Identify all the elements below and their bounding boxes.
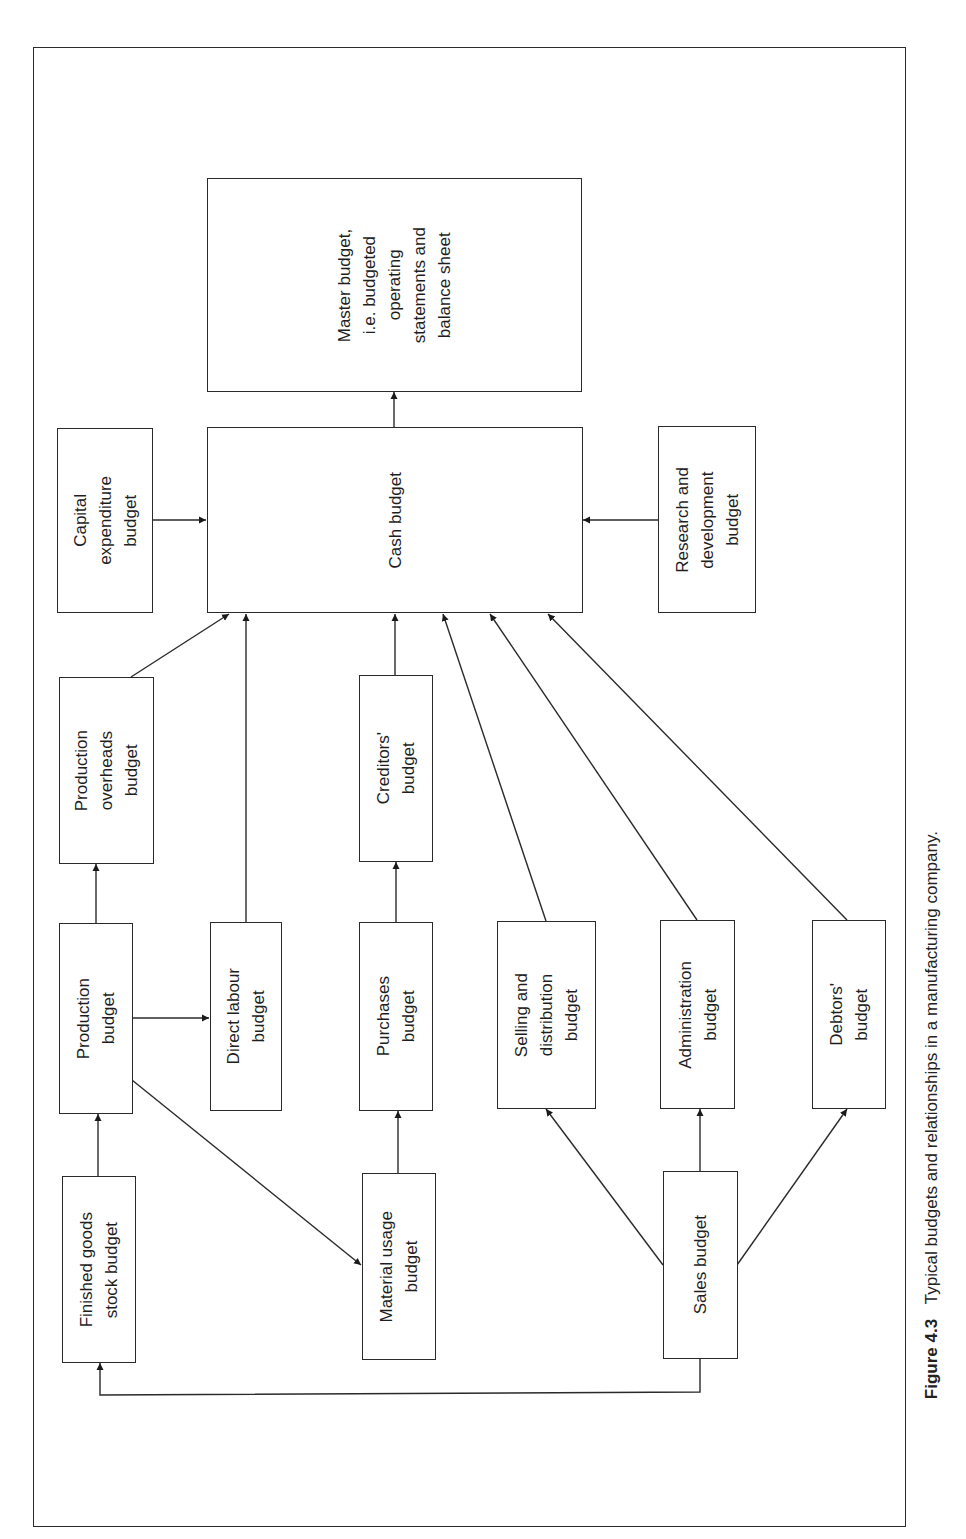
figure-number: Figure 4.3 [922, 1319, 941, 1399]
box-material-usage-budget: Material usage budget [362, 1173, 436, 1360]
box-production-overheads-budget: Production overheads budget [59, 677, 154, 864]
production-budget-label: Production budget [71, 978, 121, 1059]
debtors-budget-label: Debtors' budget [824, 983, 874, 1046]
box-debtors-budget: Debtors' budget [812, 920, 886, 1109]
figure-caption-text: Typical budgets and relationships in a m… [922, 831, 941, 1304]
research-budget-label: Research and development budget [670, 467, 745, 573]
arrow-sales-to-debtors [737, 1109, 847, 1265]
box-capital-expenditure-budget: Capital expenditure budget [57, 428, 153, 613]
master-budget-label: Master budget, i.e. budgeted operating s… [332, 227, 457, 343]
labour-budget-label: Direct labour budget [221, 968, 271, 1064]
sales-budget-label: Sales budget [688, 1215, 713, 1314]
box-direct-labour-budget: Direct labour budget [210, 922, 282, 1111]
capital-budget-label: Capital expenditure budget [68, 476, 143, 565]
box-selling-distribution-budget: Selling and distribution budget [497, 921, 596, 1109]
arrow-selling-to-cash [443, 614, 546, 921]
box-production-budget: Production budget [59, 923, 133, 1114]
box-cash-budget: Cash budget [207, 427, 583, 613]
box-creditors-budget: Creditors' budget [359, 675, 433, 862]
box-research-development-budget: Research and development budget [658, 426, 756, 613]
administration-budget-label: Administration budget [673, 961, 723, 1069]
box-purchases-budget: Purchases budget [359, 922, 433, 1111]
arrow-sales-to-selling [546, 1109, 663, 1265]
box-sales-budget: Sales budget [663, 1171, 738, 1359]
selling-budget-label: Selling and distribution budget [509, 973, 584, 1057]
cash-budget-label: Cash budget [383, 472, 408, 568]
arrow-sales-to-finished [100, 1358, 700, 1395]
box-finished-goods-stock-budget: Finished goods stock budget [62, 1176, 136, 1363]
finished-goods-budget-label: Finished goods stock budget [74, 1212, 124, 1327]
material-usage-budget-label: Material usage budget [374, 1211, 424, 1323]
box-master-budget: Master budget, i.e. budgeted operating s… [207, 178, 582, 392]
overheads-budget-label: Production overheads budget [69, 730, 144, 811]
creditors-budget-label: Creditors' budget [371, 732, 421, 804]
figure-caption: Figure 4.3 Typical budgets and relations… [922, 700, 962, 1530]
purchases-budget-label: Purchases budget [371, 976, 421, 1056]
box-administration-budget: Administration budget [660, 920, 735, 1109]
arrow-overheads-to-cash [131, 614, 229, 677]
